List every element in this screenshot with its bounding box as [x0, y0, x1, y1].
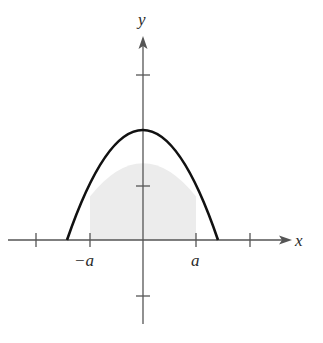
y-axis-label: y: [136, 10, 146, 29]
tick-label-neg-a: −a: [74, 251, 94, 270]
x-axis-label: x: [294, 231, 303, 250]
tick-label-a: a: [191, 251, 200, 270]
parabola-diagram: y x −a a: [0, 0, 323, 343]
